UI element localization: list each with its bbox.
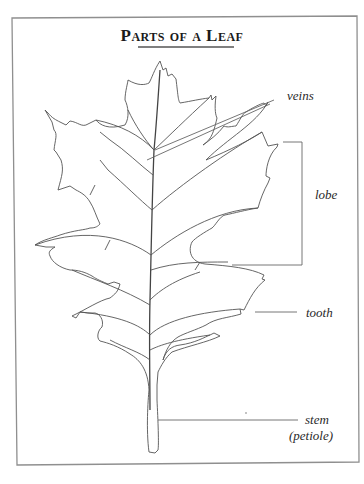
label-lobe: lobe — [315, 187, 337, 202]
speck — [245, 412, 247, 414]
label-veins: veins — [287, 88, 314, 103]
midrib — [150, 70, 160, 410]
diagram-title: Parts of a Leaf — [0, 26, 364, 46]
label-petiole: (petiole) — [289, 428, 333, 443]
label-stem: stem — [305, 412, 329, 427]
lobe-bracket — [232, 142, 302, 265]
secondary-veins — [35, 98, 262, 360]
pointer-lines — [147, 100, 302, 420]
veins-pointer-2 — [147, 104, 270, 160]
page-border — [12, 16, 359, 465]
veins-pointer-1 — [155, 100, 274, 150]
label-tooth: tooth — [306, 305, 333, 320]
